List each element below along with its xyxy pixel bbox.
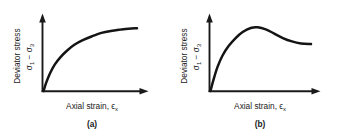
y-axis-arrow-a [39, 14, 46, 23]
panel-caption-a: (a) [87, 119, 97, 129]
panel-a-svg: Axial strain, ϵx Deviator stress σ1 − σ3… [0, 0, 174, 138]
y-axis-label-a: Deviator stress σ1 − σ3 [12, 28, 35, 83]
x-axis-arrow-a [140, 88, 149, 94]
x-axis-arrow-b [312, 88, 321, 94]
y-axis-label-a-line2: σ1 − σ3 [24, 43, 35, 70]
chart-panel-b: Axial strain, ϵx Deviator stress σ1 − σ3… [174, 0, 348, 138]
y-axis-arrow-b [206, 14, 213, 23]
figure-root: Axial strain, ϵx Deviator stress σ1 − σ3… [0, 0, 348, 138]
y-axis-label-b-line1: Deviator stress [179, 28, 189, 83]
x-axis-label-b: Axial strain, ϵx [234, 101, 286, 112]
x-axis-label-a: Axial strain, ϵx [66, 101, 118, 112]
y-axis-label-b: Deviator stress σ1 − σ3 [179, 28, 202, 83]
panel-caption-b: (b) [255, 119, 266, 129]
stress-strain-curve-a [44, 28, 138, 91]
y-axis-label-b-line2: σ1 − σ3 [191, 43, 202, 70]
chart-panel-a: Axial strain, ϵx Deviator stress σ1 − σ3… [0, 0, 174, 138]
stress-strain-curve-b [211, 27, 312, 91]
panel-b-svg: Axial strain, ϵx Deviator stress σ1 − σ3… [174, 0, 348, 138]
y-axis-label-a-line1: Deviator stress [12, 28, 22, 83]
